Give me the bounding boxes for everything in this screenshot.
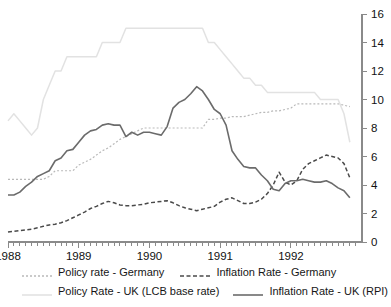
legend-label-inflation-rate-germany: Inflation Rate - Germany — [216, 266, 336, 278]
legend-row-top: Policy rate - Germany Inflation Rate - G… — [0, 262, 391, 281]
svg-text:0: 0 — [371, 236, 377, 248]
series-line-2 — [8, 28, 350, 142]
svg-text:16: 16 — [371, 8, 384, 20]
svg-text:14: 14 — [371, 37, 384, 49]
svg-text:1988: 1988 — [0, 250, 21, 260]
chart-series-group — [8, 28, 350, 232]
svg-text:1989: 1989 — [66, 250, 92, 260]
chart-legend: Policy rate - Germany Inflation Rate - G… — [0, 262, 391, 307]
legend-label-policy-rate-uk: Policy Rate - UK (LCB base rate) — [58, 285, 219, 297]
y-axis-tick-labels: 0246810121416 — [371, 8, 384, 248]
series-line-1 — [8, 155, 350, 232]
legend-swatch-inflation-rate-germany — [180, 267, 210, 277]
legend-swatch-policy-rate-germany — [22, 267, 52, 277]
svg-text:2: 2 — [371, 208, 377, 220]
legend-item-policy-rate-uk: Policy Rate - UK (LCB base rate) — [22, 285, 219, 297]
series-line-0 — [8, 104, 350, 180]
chart-plot-area: 19881989199019911992 0246810121416 — [0, 0, 391, 260]
legend-item-policy-rate-germany: Policy rate - Germany — [22, 266, 164, 278]
legend-item-inflation-rate-germany: Inflation Rate - Germany — [180, 266, 336, 278]
x-axis — [8, 242, 362, 248]
legend-swatch-inflation-rate-uk — [233, 286, 263, 296]
svg-text:10: 10 — [371, 94, 384, 106]
svg-text:12: 12 — [371, 65, 384, 77]
svg-text:1992: 1992 — [278, 250, 304, 260]
legend-row-bottom: Policy Rate - UK (LCB base rate) Inflati… — [0, 281, 391, 300]
x-axis-tick-labels: 19881989199019911992 — [0, 250, 304, 260]
y-axis — [362, 14, 367, 242]
legend-label-policy-rate-germany: Policy rate - Germany — [58, 266, 164, 278]
svg-text:1991: 1991 — [207, 250, 233, 260]
svg-text:1990: 1990 — [137, 250, 163, 260]
legend-label-inflation-rate-uk: Inflation Rate - UK (RPI) — [269, 285, 388, 297]
legend-item-inflation-rate-uk: Inflation Rate - UK (RPI) — [233, 285, 388, 297]
legend-swatch-policy-rate-uk — [22, 286, 52, 296]
interest-rate-inflation-chart: 19881989199019911992 0246810121416 Polic… — [0, 0, 391, 307]
svg-text:6: 6 — [371, 151, 377, 163]
svg-text:8: 8 — [371, 122, 377, 134]
svg-text:4: 4 — [371, 179, 378, 191]
